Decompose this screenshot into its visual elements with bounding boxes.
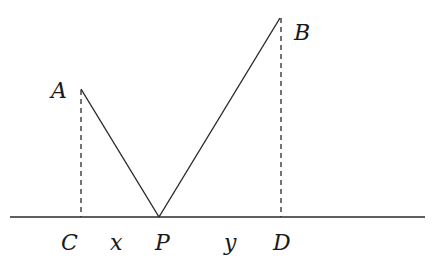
label-point-p: P xyxy=(154,230,171,255)
label-point-c: C xyxy=(61,230,78,255)
segment-ap xyxy=(81,89,159,217)
label-segment-y: y xyxy=(223,230,237,255)
diagram-canvas: A B C x P y D xyxy=(0,0,433,280)
label-point-b: B xyxy=(293,20,310,45)
label-segment-x: x xyxy=(110,230,123,255)
label-point-a: A xyxy=(49,78,67,103)
segment-pb xyxy=(159,18,280,217)
label-point-d: D xyxy=(272,230,291,255)
